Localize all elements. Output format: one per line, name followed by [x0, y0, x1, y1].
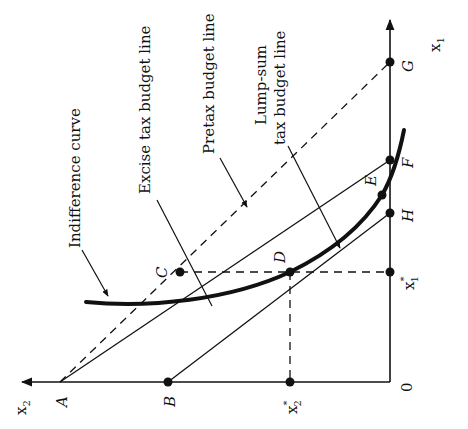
svg-text:0: 0 — [398, 382, 416, 392]
point-D — [286, 268, 295, 277]
x1-axis-label: x1 — [426, 37, 446, 52]
svg-text:Lump-sum: Lump-sum — [252, 45, 270, 125]
indifference-curve-label: Indifference curve — [66, 108, 84, 248]
svg-text:x*2: x*2 — [281, 400, 303, 414]
point-x2-star — [286, 378, 295, 387]
svg-text:x*1: x*1 — [398, 276, 420, 290]
svg-text:E: E — [362, 175, 380, 187]
svg-text:tax budget line: tax budget line — [271, 30, 289, 145]
svg-text:Excise tax budget line: Excise tax budget line — [136, 25, 154, 194]
label-F: F — [399, 157, 417, 169]
lump-sum-line-leader — [288, 146, 340, 248]
excise-line-leader — [157, 200, 212, 306]
svg-text:D: D — [271, 251, 289, 264]
svg-text:x2: x2 — [12, 400, 32, 415]
point-G — [386, 58, 395, 67]
label-x1-star: x*1 — [398, 276, 420, 290]
svg-text:G: G — [399, 60, 417, 72]
label-G: G — [399, 60, 417, 72]
excise-tax-budget-line — [60, 160, 390, 382]
lump-sum-label-line2: tax budget line — [271, 30, 289, 145]
svg-text:F: F — [399, 157, 417, 169]
svg-text:C: C — [153, 266, 171, 278]
point-x1-star — [386, 268, 395, 277]
x2-axis-label: x2 — [12, 400, 32, 415]
label-C: C — [153, 266, 171, 278]
pretax-budget-line-label: Pretax budget line — [200, 13, 218, 154]
origin-label: 0 — [398, 382, 416, 392]
point-E — [378, 191, 387, 200]
indifference-curve-leader — [82, 250, 108, 296]
svg-text:B: B — [161, 396, 179, 408]
svg-text:H: H — [399, 208, 417, 223]
label-E: E — [362, 175, 380, 187]
label-A: A — [53, 396, 71, 409]
svg-text:A: A — [53, 396, 71, 409]
label-x2-star: x*2 — [281, 400, 303, 414]
svg-text:Pretax budget line: Pretax budget line — [200, 13, 218, 154]
label-H: H — [399, 208, 417, 223]
excise-tax-budget-line-label: Excise tax budget line — [136, 25, 154, 194]
tax-budget-diagram: x1 x2 0 A B x*2 G F H x*1 C D E Indiffer… — [0, 0, 468, 429]
point-C — [176, 268, 185, 277]
label-D: D — [271, 251, 289, 264]
label-B: B — [161, 396, 179, 408]
pretax-budget-line — [60, 62, 390, 382]
indifference-curve — [86, 130, 404, 304]
point-F — [386, 156, 395, 165]
point-H — [386, 209, 395, 218]
lump-sum-label-line1: Lump-sum — [252, 45, 270, 125]
svg-text:Indifference curve: Indifference curve — [66, 108, 84, 248]
pretax-line-leader — [220, 158, 247, 207]
point-B — [164, 378, 173, 387]
svg-text:x1: x1 — [426, 37, 446, 52]
